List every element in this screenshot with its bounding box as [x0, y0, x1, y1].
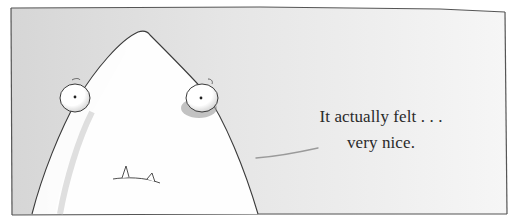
comic-panel-canvas: It actually felt . . . very nice.: [0, 0, 517, 222]
dialogue-caption: It actually felt . . . very nice.: [296, 104, 466, 156]
dialogue-line-2: very nice.: [296, 130, 466, 156]
dialogue-line-1: It actually felt . . .: [296, 104, 466, 130]
